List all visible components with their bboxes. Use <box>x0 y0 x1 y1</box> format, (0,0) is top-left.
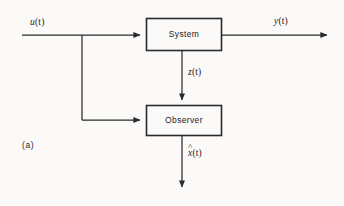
circumflex-icon: ^ <box>188 143 192 152</box>
signal-label-output: y(t) <box>274 16 288 26</box>
figure-caption: (a) <box>22 140 34 150</box>
block-system[interactable] <box>146 18 222 51</box>
signal-label-input: u(t) <box>30 17 45 27</box>
signal-estimate-hat-group: ^x <box>188 148 192 158</box>
signal-label-estimate: ^x(t) <box>188 148 202 158</box>
signal-input-arg: (t) <box>35 17 45 27</box>
block-observer[interactable] <box>146 105 222 136</box>
figure-canvas: System Observer u(t) y(t) z(t) ^x(t) (a) <box>0 0 344 206</box>
signal-output-arg: (t) <box>278 16 288 26</box>
signal-measurement-arg: (t) <box>192 67 202 77</box>
signal-label-measurement: z(t) <box>188 67 201 77</box>
signal-estimate-arg: (t) <box>192 148 202 158</box>
